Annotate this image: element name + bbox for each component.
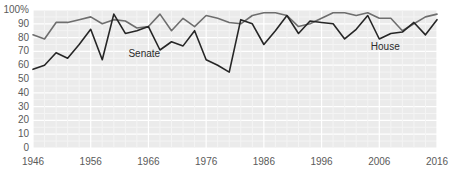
series-label-house: House <box>371 42 400 52</box>
y-axis-tick-label: 90 <box>18 19 29 29</box>
y-axis-tick-label: 10 <box>18 129 29 139</box>
x-axis-tick-label: 1976 <box>188 157 224 167</box>
x-axis-tick-label: 2006 <box>361 157 397 167</box>
y-axis-tick-label: 70 <box>18 46 29 56</box>
y-axis-tick-label: 0 <box>23 143 29 153</box>
y-axis-tick-label: 50 <box>18 74 29 84</box>
x-axis-tick-label: 1996 <box>304 157 340 167</box>
series-label-senate: Senate <box>128 49 160 59</box>
x-axis-tick-label: 1946 <box>15 157 51 167</box>
x-axis-tick-label: 1966 <box>130 157 166 167</box>
y-axis-tick-label: 60 <box>18 60 29 70</box>
y-axis-tick-label: 20 <box>18 115 29 125</box>
y-axis-tick-label: 40 <box>18 88 29 98</box>
y-axis-tick-label: 30 <box>18 102 29 112</box>
x-axis-tick-label: 2016 <box>419 157 453 167</box>
x-axis-tick-label: 1986 <box>246 157 282 167</box>
x-axis-tick-label: 1956 <box>73 157 109 167</box>
y-axis-tick-label: 80 <box>18 33 29 43</box>
y-axis-tick-label: 100% <box>3 5 29 15</box>
gridlines <box>33 10 437 148</box>
